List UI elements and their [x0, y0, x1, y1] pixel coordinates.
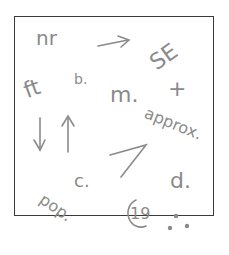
arrow-right-icon: [98, 36, 129, 47]
copyright-circle-icon: [128, 200, 146, 227]
sketch-marks: [0, 0, 229, 255]
arrow-down-icon: [34, 118, 45, 150]
therefore-dots-icon: [168, 214, 189, 230]
angle-icon: [110, 145, 146, 177]
arrow-up-icon: [62, 116, 74, 152]
